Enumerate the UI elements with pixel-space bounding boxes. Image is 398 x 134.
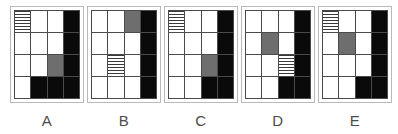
grid-cell-r2c1: [92, 33, 107, 54]
grid-cell-r4c1: [169, 77, 184, 98]
grid-cell-r3c4: [64, 55, 79, 76]
grid-cell-r4c4: [64, 77, 79, 98]
grid-cell-r3c2: [185, 55, 200, 76]
grid-cell-r2c2: [108, 33, 123, 54]
grid-cell-r4c1: [323, 77, 338, 98]
answer-option-a[interactable]: A: [9, 6, 85, 128]
answer-option-b[interactable]: B: [86, 6, 162, 128]
grid-cell-r3c2: [108, 55, 123, 76]
grid-cell-r2c4: [141, 33, 156, 54]
option-panel[interactable]: [10, 6, 84, 103]
option-panel[interactable]: [87, 6, 161, 103]
grid-cell-r3c1: [246, 55, 261, 76]
option-label: A: [42, 113, 53, 128]
grid-cell-r1c4: [64, 11, 79, 32]
grid-cell-r3c3: [48, 55, 63, 76]
grid-cell-r2c4: [372, 33, 387, 54]
grid-cell-r1c3: [125, 11, 140, 32]
grid-cell-r2c2: [31, 33, 46, 54]
pattern-grid: [168, 10, 234, 99]
grid-cell-r3c4: [372, 55, 387, 76]
grid-cell-r3c3: [279, 55, 294, 76]
grid-cell-r2c2: [185, 33, 200, 54]
grid-cell-r2c1: [169, 33, 184, 54]
grid-cell-r4c1: [92, 77, 107, 98]
grid-cell-r4c2: [262, 77, 277, 98]
grid-cell-r3c1: [15, 55, 30, 76]
grid-cell-r2c4: [218, 33, 233, 54]
grid-cell-r1c1: [92, 11, 107, 32]
grid-cell-r3c3: [356, 55, 371, 76]
grid-cell-r2c1: [323, 33, 338, 54]
grid-cell-r2c3: [356, 33, 371, 54]
grid-cell-r3c4: [295, 55, 310, 76]
grid-cell-r1c4: [372, 11, 387, 32]
grid-cell-r2c1: [246, 33, 261, 54]
grid-cell-r1c3: [279, 11, 294, 32]
grid-cell-r4c3: [202, 77, 217, 98]
grid-cell-r1c4: [141, 11, 156, 32]
grid-cell-r2c2: [262, 33, 277, 54]
pattern-grid: [322, 10, 388, 99]
grid-cell-r3c2: [339, 55, 354, 76]
option-panel[interactable]: [318, 6, 392, 103]
grid-cell-r1c2: [339, 11, 354, 32]
answer-options-row: ABCDE: [0, 0, 398, 128]
grid-cell-r1c2: [31, 11, 46, 32]
grid-cell-r4c2: [339, 77, 354, 98]
option-label: B: [119, 113, 130, 128]
grid-cell-r4c1: [246, 77, 261, 98]
grid-cell-r2c4: [295, 33, 310, 54]
grid-cell-r1c1: [169, 11, 184, 32]
grid-cell-r4c4: [372, 77, 387, 98]
grid-cell-r4c2: [31, 77, 46, 98]
option-label: E: [350, 113, 361, 128]
grid-cell-r3c4: [141, 55, 156, 76]
grid-cell-r1c1: [323, 11, 338, 32]
grid-cell-r2c4: [64, 33, 79, 54]
answer-option-e[interactable]: E: [317, 6, 393, 128]
grid-cell-r4c2: [185, 77, 200, 98]
grid-cell-r3c2: [262, 55, 277, 76]
grid-cell-r2c3: [202, 33, 217, 54]
grid-cell-r4c3: [48, 77, 63, 98]
grid-cell-r3c1: [169, 55, 184, 76]
option-panel[interactable]: [164, 6, 238, 103]
grid-cell-r3c3: [202, 55, 217, 76]
grid-cell-r3c2: [31, 55, 46, 76]
grid-cell-r4c3: [356, 77, 371, 98]
grid-cell-r4c2: [108, 77, 123, 98]
grid-cell-r1c1: [15, 11, 30, 32]
grid-cell-r1c1: [246, 11, 261, 32]
grid-cell-r2c3: [125, 33, 140, 54]
grid-cell-r1c3: [202, 11, 217, 32]
grid-cell-r1c3: [48, 11, 63, 32]
grid-cell-r4c3: [279, 77, 294, 98]
grid-cell-r2c3: [279, 33, 294, 54]
pattern-grid: [245, 10, 311, 99]
grid-cell-r1c2: [185, 11, 200, 32]
grid-cell-r3c3: [125, 55, 140, 76]
grid-cell-r3c1: [323, 55, 338, 76]
grid-cell-r1c4: [295, 11, 310, 32]
grid-cell-r1c4: [218, 11, 233, 32]
grid-cell-r1c3: [356, 11, 371, 32]
grid-cell-r4c4: [141, 77, 156, 98]
pattern-grid: [14, 10, 80, 99]
grid-cell-r1c2: [262, 11, 277, 32]
grid-cell-r4c4: [295, 77, 310, 98]
option-label: C: [195, 113, 206, 128]
answer-option-d[interactable]: D: [240, 6, 316, 128]
grid-cell-r1c2: [108, 11, 123, 32]
answer-option-c[interactable]: C: [163, 6, 239, 128]
pattern-grid: [91, 10, 157, 99]
grid-cell-r2c1: [15, 33, 30, 54]
option-label: D: [272, 113, 283, 128]
grid-cell-r3c1: [92, 55, 107, 76]
grid-cell-r3c4: [218, 55, 233, 76]
grid-cell-r4c1: [15, 77, 30, 98]
option-panel[interactable]: [241, 6, 315, 103]
grid-cell-r2c3: [48, 33, 63, 54]
grid-cell-r4c3: [125, 77, 140, 98]
grid-cell-r4c4: [218, 77, 233, 98]
